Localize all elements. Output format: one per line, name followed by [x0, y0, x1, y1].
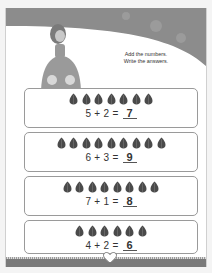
gem-icon [119, 93, 128, 105]
answer-field[interactable]: 6 [123, 240, 137, 251]
problem-box-3: 7 + 1 =8 [24, 176, 198, 216]
gem-icon [94, 93, 103, 105]
gem-row [25, 137, 197, 149]
heart-icon [103, 252, 117, 264]
equation: 7 + 1 =8 [25, 196, 197, 207]
gem-icon [88, 181, 97, 193]
problem-box-1: 5 + 2 =7 [24, 88, 198, 128]
princess-illustration [36, 16, 86, 96]
answer-field[interactable]: 8 [123, 196, 137, 207]
gem-icon [132, 93, 141, 105]
equation-text: 4 + 2 = [85, 240, 118, 251]
gem-icon [63, 181, 72, 193]
gem-icon [125, 225, 134, 237]
gem-icon [150, 181, 159, 193]
gem-icon [69, 137, 78, 149]
answer-field[interactable]: 7 [123, 108, 137, 119]
gem-icon [138, 225, 147, 237]
gem-icon [113, 225, 122, 237]
gem-icon [119, 137, 128, 149]
gem-icon [132, 137, 141, 149]
gem-icon [144, 93, 153, 105]
gem-icon [113, 181, 122, 193]
gem-row [25, 181, 197, 193]
equation-text: 7 + 1 = [85, 196, 118, 207]
gem-icon [57, 137, 66, 149]
gem-icon [138, 181, 147, 193]
gem-icon [107, 93, 116, 105]
equation: 4 + 2 =6 [25, 240, 197, 251]
gem-icon [157, 137, 166, 149]
instructions: Add the numbers. Write the answers. [96, 51, 196, 65]
workbook-page: Add the numbers. Write the answers. 5 + … [5, 8, 207, 267]
gem-icon [82, 93, 91, 105]
gem-icon [107, 137, 116, 149]
gem-row [25, 225, 197, 237]
equation: 6 + 3 =9 [25, 152, 197, 163]
gem-icon [125, 181, 134, 193]
equation-text: 5 + 2 = [85, 108, 118, 119]
equation-text: 6 + 3 = [85, 152, 118, 163]
answer-field[interactable]: 9 [123, 152, 137, 163]
instruction-line-1: Add the numbers. [96, 51, 196, 58]
gem-icon [100, 181, 109, 193]
gem-icon [75, 181, 84, 193]
equation: 5 + 2 =7 [25, 108, 197, 119]
gem-icon [69, 93, 78, 105]
gem-icon [82, 137, 91, 149]
gem-icon [94, 137, 103, 149]
instruction-line-2: Write the answers. [96, 58, 196, 65]
gem-icon [100, 225, 109, 237]
problem-box-2: 6 + 3 =9 [24, 132, 198, 172]
gem-row [25, 93, 197, 105]
gem-icon [144, 137, 153, 149]
problem-box-4: 4 + 2 =6 [24, 220, 198, 254]
gem-icon [75, 225, 84, 237]
gem-icon [88, 225, 97, 237]
